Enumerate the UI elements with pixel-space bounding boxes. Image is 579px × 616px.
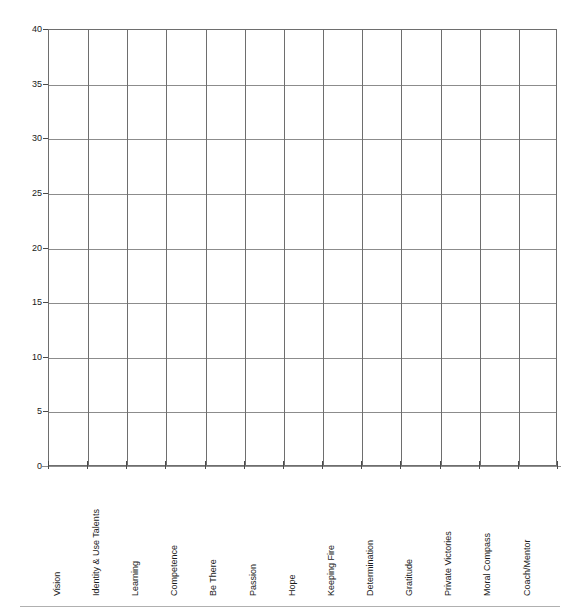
x-axis-category-label: Be There: [216, 470, 227, 596]
y-axis-tick-label: 40: [12, 25, 42, 34]
footer-rule: [20, 606, 560, 607]
x-axis-category-label-text: Passion: [248, 564, 258, 596]
x-axis-category-label-text: Identity & Use Talents: [91, 509, 101, 596]
x-axis-tick-mark: [479, 461, 480, 469]
x-axis-tick-mark: [518, 461, 519, 469]
gridline-vertical: [88, 30, 89, 465]
x-axis-tick-mark: [440, 461, 441, 469]
x-axis-category-label: Passion: [256, 470, 267, 596]
y-axis-tick-mark: [43, 29, 48, 30]
y-axis-tick-label: 10: [12, 352, 42, 361]
gridline-vertical: [323, 30, 324, 465]
gridline-vertical: [245, 30, 246, 465]
y-axis-tick-mark: [43, 193, 48, 194]
x-axis-category-label: Identity & Use Talents: [99, 470, 110, 596]
x-axis-tick-mark: [361, 461, 362, 469]
x-axis-category-label-text: Coach/Mentor: [522, 539, 532, 596]
x-axis-category-label-text: Keeping Fire: [326, 545, 336, 596]
x-axis-category-label-text: Private Victories: [443, 531, 453, 596]
x-axis-tick-mark: [322, 461, 323, 469]
x-axis-category-label: Private Victories: [451, 470, 462, 596]
y-axis-tick-label: 20: [12, 243, 42, 252]
x-axis-tick-mark: [205, 461, 206, 469]
x-axis-category-label: Hope: [295, 470, 306, 596]
gridline-vertical: [519, 30, 520, 465]
y-axis-tick-label: 15: [12, 298, 42, 307]
x-axis-category-label: Vision: [60, 470, 71, 596]
x-axis-category-label: Gratitude: [412, 470, 423, 596]
y-axis-tick-mark: [43, 248, 48, 249]
plot-area: [48, 29, 557, 466]
x-axis-tick-mark: [244, 461, 245, 469]
x-axis-category-label-text: Competence: [169, 545, 179, 596]
x-axis-category-label-text: Determination: [365, 540, 375, 596]
y-axis-tick-label: 5: [12, 407, 42, 416]
x-axis-tick-mark: [87, 461, 88, 469]
y-axis-tick-label: 35: [12, 79, 42, 88]
y-axis-tick-label: 25: [12, 188, 42, 197]
x-axis-tick-mark: [557, 461, 558, 469]
gridline-vertical: [206, 30, 207, 465]
x-axis-category-label-text: Hope: [287, 574, 297, 596]
gridline-vertical: [441, 30, 442, 465]
y-axis-tick-mark: [43, 411, 48, 412]
x-axis-category-label-text: Moral Compass: [482, 533, 492, 596]
x-axis-tick-mark: [400, 461, 401, 469]
y-axis-tick-mark: [43, 357, 48, 358]
gridline-vertical: [127, 30, 128, 465]
x-axis-tick-mark: [283, 461, 284, 469]
x-axis-category-label-text: Be There: [208, 559, 218, 596]
gridline-vertical: [284, 30, 285, 465]
x-axis-category-label: Keeping Fire: [334, 470, 345, 596]
gridline-vertical: [480, 30, 481, 465]
x-axis-category-label: Determination: [373, 470, 384, 596]
x-axis-category-label: Moral Compass: [490, 470, 501, 596]
chart-figure: 0510152025303540 VisionIdentity & Use Ta…: [0, 0, 579, 616]
gridline-vertical: [362, 30, 363, 465]
y-axis-tick-mark: [43, 84, 48, 85]
x-axis-tick-mark: [126, 461, 127, 469]
y-axis-tick-mark: [43, 302, 48, 303]
x-axis-category-label: Learning: [138, 470, 149, 596]
gridline-vertical: [166, 30, 167, 465]
x-axis-category-label-text: Gratitude: [404, 559, 414, 596]
gridline-vertical: [401, 30, 402, 465]
x-axis-category-label-text: Vision: [52, 572, 62, 596]
x-axis-labels: VisionIdentity & Use TalentsLearningComp…: [0, 470, 579, 600]
x-axis-tick-mark: [48, 461, 49, 469]
x-axis-category-label: Competence: [177, 470, 188, 596]
y-axis-tick-label: 30: [12, 134, 42, 143]
x-axis-tick-mark: [165, 461, 166, 469]
x-axis-category-label-text: Learning: [130, 561, 140, 596]
y-axis-labels: 0510152025303540: [6, 29, 42, 466]
y-axis-tick-mark: [43, 138, 48, 139]
x-axis-category-label: Coach/Mentor: [530, 470, 541, 596]
